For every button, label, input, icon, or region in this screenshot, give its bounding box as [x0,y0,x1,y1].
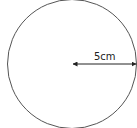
radius-label: 5cm [94,51,116,62]
diagram-canvas: 5cm [0,0,137,128]
circle-diagram: 5cm [0,0,137,128]
